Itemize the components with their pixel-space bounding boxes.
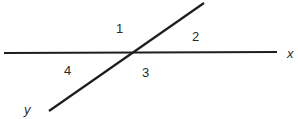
angle-3-label: 3 (142, 65, 149, 80)
angle-diagram: 1 2 3 4 x y (0, 0, 298, 119)
line-y (49, 3, 204, 111)
line-x-label: x (286, 46, 294, 61)
line-y-label: y (23, 102, 32, 117)
diagram-svg: 1 2 3 4 x y (0, 0, 298, 119)
line-x (4, 52, 277, 53)
angle-4-label: 4 (64, 63, 71, 78)
angle-1-label: 1 (116, 21, 123, 36)
angle-2-label: 2 (192, 29, 199, 44)
